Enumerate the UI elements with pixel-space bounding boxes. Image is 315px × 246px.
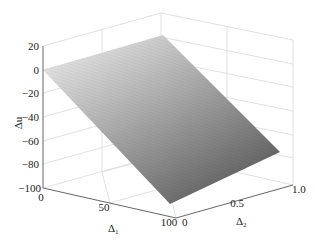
z-tick: −60 [22, 135, 40, 147]
z-tick: −80 [22, 158, 40, 170]
x-axis-line [43, 188, 176, 218]
surface [43, 35, 280, 204]
z-tick: −40 [22, 111, 40, 123]
y-tick: 1.0 [292, 183, 306, 195]
z-axis-label: Δu [12, 116, 24, 129]
z-tick: 20 [28, 40, 40, 52]
z-tick: −20 [22, 87, 40, 99]
surface-plot: 20 0 −20 −40 −60 −80 −100 0 50 100 0 0.5… [0, 0, 315, 246]
x-tick: 100 [161, 216, 178, 228]
z-tick: 0 [34, 64, 40, 76]
y-tick: 0.5 [230, 197, 244, 209]
y-tick: 0 [182, 216, 188, 228]
x-tick: 50 [99, 201, 111, 213]
y-axis-label: Δ2 [236, 215, 247, 229]
x-axis-label: Δ1 [108, 222, 119, 236]
x-tick: 0 [38, 191, 44, 203]
